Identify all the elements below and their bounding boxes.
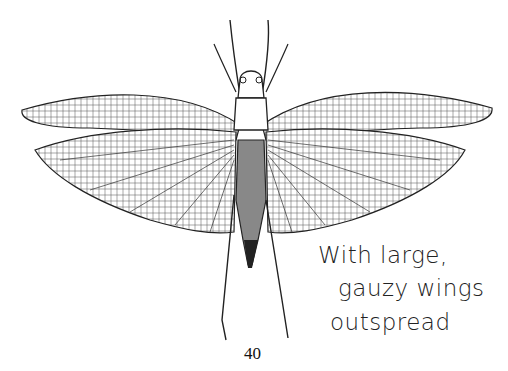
caption-line-2: gauzy wings [338,277,485,300]
caption-line-3: outspread [330,311,451,334]
hindwing-right [266,129,465,233]
head [238,71,264,98]
hindwing-left [35,129,236,233]
thorax [234,98,268,130]
caption-line-1: With large, [318,244,448,267]
page-number: 40 [244,344,261,364]
